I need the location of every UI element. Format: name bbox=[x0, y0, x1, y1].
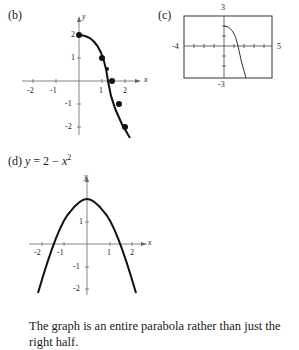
caption-text: The graph is an entire parabola rather t… bbox=[29, 318, 299, 350]
graph-d-xtick: -1 bbox=[57, 248, 64, 257]
graph-b-ytick: 1 bbox=[71, 53, 75, 62]
graph-d-xtick: 2 bbox=[130, 248, 134, 257]
graph-d-ytick: -2 bbox=[73, 284, 80, 293]
graph-d-ytick: 1 bbox=[79, 217, 83, 226]
equation-op: = 2 − bbox=[30, 154, 62, 168]
graph-b-ytick: -1 bbox=[65, 99, 72, 108]
graph-c-xmin: -4 bbox=[172, 42, 179, 51]
graph-b bbox=[0, 0, 150, 150]
equation-exp: 2 bbox=[67, 153, 71, 162]
graph-d-x-label: x bbox=[148, 238, 152, 247]
graph-c-xmax: 5 bbox=[277, 42, 281, 51]
graph-b-xtick: -1 bbox=[50, 86, 57, 95]
panel-d-title: (d) y = 2 − x2 bbox=[8, 153, 71, 169]
panel-c-label: (c) bbox=[158, 8, 171, 23]
graph-b-ytick: -2 bbox=[65, 122, 72, 131]
graph-d-xtick: -2 bbox=[34, 248, 41, 257]
graph-b-xtick: -2 bbox=[27, 86, 34, 95]
graph-c-ymax: 3 bbox=[221, 3, 225, 12]
graph-b-x-label: x bbox=[144, 75, 148, 84]
graph-b-xtick: 2 bbox=[123, 86, 127, 95]
graph-d-y-label: y bbox=[84, 172, 88, 181]
graph-d-xtick: 1 bbox=[107, 248, 111, 257]
graph-d bbox=[0, 170, 150, 300]
graph-b-ytick: 2 bbox=[71, 30, 75, 39]
graph-d-ytick: -1 bbox=[73, 262, 80, 271]
graph-c-window bbox=[180, 10, 280, 85]
panel-d-label: (d) bbox=[8, 154, 22, 168]
graph-c-ymin: -3 bbox=[218, 80, 225, 89]
graph-b-xtick: 1 bbox=[99, 86, 103, 95]
graph-b-y-label: y bbox=[82, 12, 86, 21]
